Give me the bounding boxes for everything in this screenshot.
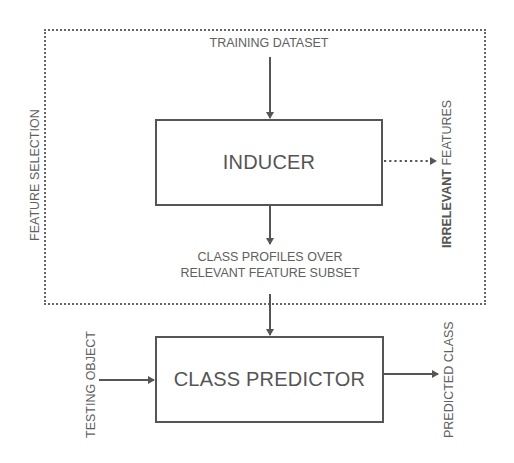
edges-layer	[0, 0, 514, 463]
